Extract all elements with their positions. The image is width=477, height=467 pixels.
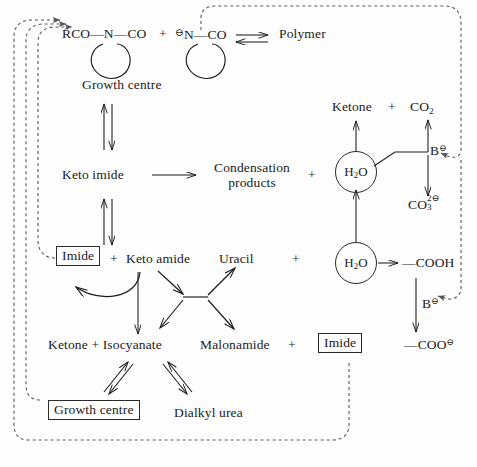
equilibrium-growth-centre-bottom [104, 362, 133, 394]
reaction-scheme-diagram: RCO—N—CO + ⊖N—CO Polymer Growth centre K… [0, 0, 477, 467]
dashed-recycle-imide-bottom [14, 20, 349, 440]
label-plus-ketone-co2: + [388, 100, 396, 114]
label-plus-2: + [308, 168, 316, 182]
label-cooh: —COOH [402, 256, 455, 270]
dashed-base-supply-lower [438, 160, 461, 299]
cross-arrow-cluster [158, 268, 235, 329]
equilibrium-ketoimide-imide [104, 199, 112, 245]
imide-box-mid: Imide [56, 246, 100, 266]
label-reactant-acyl: RCO—N—CO [62, 27, 146, 41]
label-plus-5: + [288, 338, 296, 352]
line-water-to-base [374, 152, 428, 166]
label-co2: CO2 [410, 100, 434, 116]
label-growth-centre-bottom: Growth centre [48, 403, 140, 417]
label-carbonate: CO2⊖3 [408, 198, 434, 212]
equilibrium-dialkyl-urea [163, 362, 192, 394]
label-growth-centre-top: Growth centre [82, 78, 162, 92]
label-ketone-top: Ketone [332, 100, 372, 114]
label-malonamide: Malonamide [200, 338, 270, 352]
label-imide-bottom: Imide [318, 336, 362, 350]
imide-box-bottom: Imide [318, 333, 362, 353]
curved-arrow-ketoamide-to-imide [76, 272, 140, 297]
growth-centre-box: Growth centre [48, 400, 140, 420]
label-condensation-products: Condensation products [214, 160, 290, 190]
water-circle-upper: H2O [335, 151, 377, 193]
label-polymer: Polymer [279, 27, 326, 41]
label-keto-amide: Keto amide [126, 252, 190, 266]
imide-ring-right [186, 44, 225, 78]
label-carboxylate: —COO⊖ [404, 338, 454, 352]
label-dialkyl-urea: Dialkyl urea [174, 406, 243, 420]
label-plus-3: + [110, 252, 118, 266]
label-uracil: Uracil [219, 252, 254, 266]
dashed-base-supply [201, 6, 461, 157]
imide-ring-left [91, 44, 130, 78]
dashed-recycle-imide-mid [38, 27, 72, 258]
label-plus-1: + [159, 27, 167, 41]
label-imide-mid: Imide [56, 249, 100, 263]
water-circle-lower: H2O [335, 242, 377, 284]
equilibrium-growth-ketoimide [104, 104, 112, 150]
label-reactant-anion-charge: ⊖N—CO [175, 27, 227, 42]
label-water-lower: H2O [335, 242, 377, 284]
scheme-vector-layer [0, 0, 477, 467]
label-plus-4: + [292, 252, 300, 266]
label-ketone-isocyanate: Ketone + Isocyanate [48, 338, 162, 352]
label-base-upper: B⊖ [430, 144, 447, 158]
equilibrium-polymer [236, 35, 268, 42]
label-keto-imide: Keto imide [62, 168, 124, 182]
label-base-lower: B⊖ [422, 297, 439, 311]
label-water-upper: H2O [335, 151, 377, 193]
